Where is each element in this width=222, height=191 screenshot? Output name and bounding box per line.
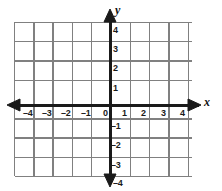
x-tick-label: 3 [161, 108, 166, 118]
y-tick-label: –4 [113, 178, 123, 188]
y-tick-label: –3 [111, 160, 121, 170]
x-tick-label: –2 [61, 108, 71, 118]
grid-lines [15, 22, 193, 177]
coordinate-grid-figure: –4 –3 –2 –1 0 1 2 3 4 4 3 2 1 –1 –2 –3 –… [0, 0, 222, 191]
x-tick-label: 1 [122, 108, 127, 118]
x-tick-label: –1 [81, 108, 91, 118]
x-axis-left-arrowhead [7, 99, 20, 111]
x-axis-label: x [204, 96, 210, 108]
x-tick-label: –4 [23, 108, 33, 118]
x-tick-label: –3 [42, 108, 52, 118]
origin-label: 0 [103, 108, 108, 118]
x-tick-label: 2 [141, 108, 146, 118]
y-tick-label: 4 [113, 25, 118, 35]
y-axis-label: y [115, 4, 120, 16]
y-tick-label: –2 [111, 140, 121, 150]
y-tick-label: 2 [113, 63, 118, 73]
axes [7, 9, 201, 187]
y-tick-label: 1 [113, 83, 118, 93]
y-tick-label: –1 [111, 121, 121, 131]
x-tick-label: 4 [180, 108, 185, 118]
y-tick-label: 3 [113, 44, 118, 54]
x-axis-right-arrowhead [188, 99, 201, 111]
